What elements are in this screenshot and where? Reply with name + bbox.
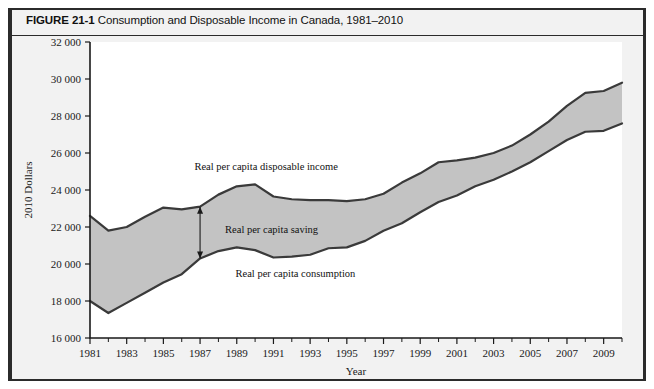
x-tick-label: 1983	[116, 347, 139, 359]
y-tick-label: 26 000	[51, 147, 82, 159]
x-tick-label: 1981	[79, 347, 101, 359]
x-tick-label: 1987	[189, 347, 212, 359]
y-tick-label: 18 000	[51, 295, 82, 307]
y-tick-label: 20 000	[51, 258, 82, 270]
x-tick-label: 2007	[556, 347, 579, 359]
page-title: FIGURE 21-1 Consumption and Disposable I…	[26, 14, 403, 26]
y-tick-label: 28 000	[51, 110, 82, 122]
figure-header: FIGURE 21-1 Consumption and Disposable I…	[12, 10, 643, 36]
plot-host: 16 00018 00020 00022 00024 00026 00028 0…	[12, 36, 643, 379]
y-tick-label: 16 000	[51, 332, 82, 344]
x-tick-label: 2003	[483, 347, 506, 359]
x-tick-label: 1989	[226, 347, 249, 359]
y-axis-title: 2010 Dollars	[22, 161, 34, 218]
x-tick-label: 2009	[593, 347, 616, 359]
x-tick-label: 1985	[152, 347, 175, 359]
x-tick-label: 1999	[409, 347, 432, 359]
saving-annotation: Real per capita saving	[225, 224, 319, 235]
figure-title-text: Consumption and Disposable Income in Can…	[98, 14, 403, 26]
consumption-annotation: Real per capita consumption	[236, 268, 357, 279]
figure-number: FIGURE 21-1	[26, 14, 95, 26]
x-axis-title: Year	[346, 365, 367, 377]
figure-container: FIGURE 21-1 Consumption and Disposable I…	[8, 8, 646, 381]
x-tick-label: 1993	[299, 347, 322, 359]
y-tick-label: 22 000	[51, 221, 82, 233]
x-tick-label: 2005	[519, 347, 542, 359]
income-annotation: Real per capita disposable income	[194, 161, 338, 172]
x-tick-label: 1991	[262, 347, 284, 359]
x-tick-label: 1995	[336, 347, 359, 359]
x-tick-label: 1997	[373, 347, 396, 359]
line-area-chart: 16 00018 00020 00022 00024 00026 00028 0…	[12, 36, 643, 381]
y-tick-label: 32 000	[51, 36, 82, 48]
plot-background	[90, 42, 622, 338]
y-tick-label: 30 000	[51, 73, 82, 85]
x-tick-label: 2001	[446, 347, 468, 359]
y-tick-label: 24 000	[51, 184, 82, 196]
